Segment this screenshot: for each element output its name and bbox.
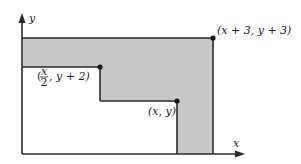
staircase-region-diagram: y x (x + 3, y + 3) ( x 2 , y + 2) (x, y) xyxy=(0,0,301,164)
label-mid-step: ( x 2 , y + 2) xyxy=(37,65,90,89)
x-axis-label: x xyxy=(233,137,240,150)
label-mid-rest: , y + 2) xyxy=(49,70,90,83)
point-base xyxy=(174,98,179,103)
shaded-region xyxy=(22,38,213,154)
label-base: (x, y) xyxy=(148,105,176,118)
x-axis-arrow-icon xyxy=(235,151,245,158)
y-axis-arrow-icon xyxy=(19,13,26,23)
point-top-right xyxy=(210,35,215,40)
label-top-right: (x + 3, y + 3) xyxy=(217,24,291,37)
point-mid-step xyxy=(97,64,102,69)
y-axis-label: y xyxy=(28,12,36,25)
label-mid-frac-den: 2 xyxy=(41,76,48,89)
